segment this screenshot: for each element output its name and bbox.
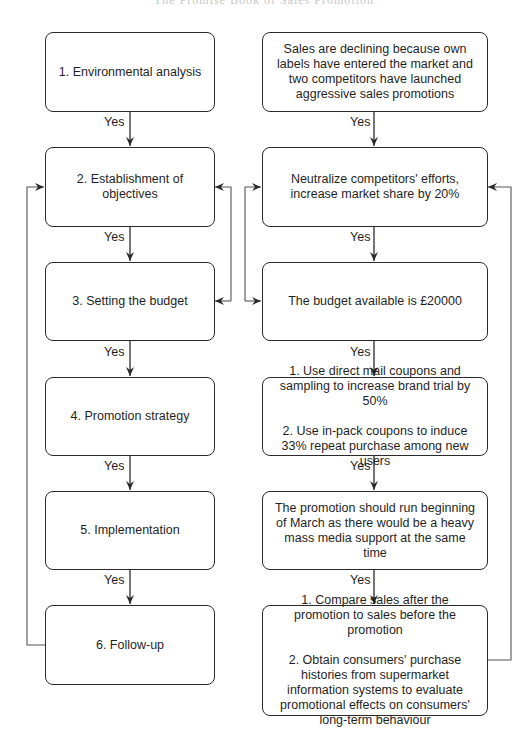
example-objectives: Neutralize competitors' efforts, increas… (262, 147, 488, 227)
example-environmental-analysis: Sales are declining because own labels h… (262, 32, 488, 112)
example-promotion-strategy: 1. Use direct mail coupons and sampling … (262, 377, 488, 456)
example-implementation: The promotion should run beginning of Ma… (262, 491, 488, 570)
follow-up-item: 1. Compare sales after the promotion to … (273, 593, 477, 638)
box-label: 6. Follow-up (96, 638, 164, 653)
box-label: The budget available is £20000 (288, 294, 462, 309)
box-label: 5. Implementation (80, 523, 179, 538)
strategy-item: 2. Use in-pack coupons to induce 33% rep… (271, 424, 479, 469)
example-follow-up: 1. Compare sales after the promotion to … (262, 605, 488, 716)
step-follow-up: 6. Follow-up (45, 605, 215, 685)
step-implementation: 5. Implementation (45, 491, 215, 570)
box-label: 3. Setting the budget (72, 294, 187, 309)
edge-label-yes: Yes (104, 115, 124, 129)
step-environmental-analysis: 1. Environmental analysis (45, 32, 215, 112)
step-setting-the-budget: 3. Setting the budget (45, 262, 215, 341)
step-promotion-strategy: 4. Promotion strategy (45, 377, 215, 456)
box-label: 4. Promotion strategy (71, 409, 190, 424)
box-label: Neutralize competitors' efforts, increas… (277, 172, 473, 202)
edge-label-yes: Yes (350, 345, 370, 359)
follow-up-item: 2. Obtain consumers' purchase histories … (273, 653, 477, 728)
edge-label-yes: Yes (350, 115, 370, 129)
strategy-item: 1. Use direct mail coupons and sampling … (271, 364, 479, 409)
edge-label-yes: Yes (104, 459, 124, 473)
edge-label-yes: Yes (104, 345, 124, 359)
edge-label-yes: Yes (350, 230, 370, 244)
edge-label-yes: Yes (104, 573, 124, 587)
box-label: Sales are declining because own labels h… (277, 42, 473, 102)
box-label: 2. Establishment of objectives (52, 172, 208, 202)
edge-label-yes: Yes (104, 230, 124, 244)
example-budget: The budget available is £20000 (262, 262, 488, 341)
edge-label-yes: Yes (350, 573, 370, 587)
box-label: The promotion should run beginning of Ma… (273, 501, 477, 561)
step-establishment-of-objectives: 2. Establishment of objectives (45, 147, 215, 227)
box-label: 1. Environmental analysis (59, 65, 201, 80)
